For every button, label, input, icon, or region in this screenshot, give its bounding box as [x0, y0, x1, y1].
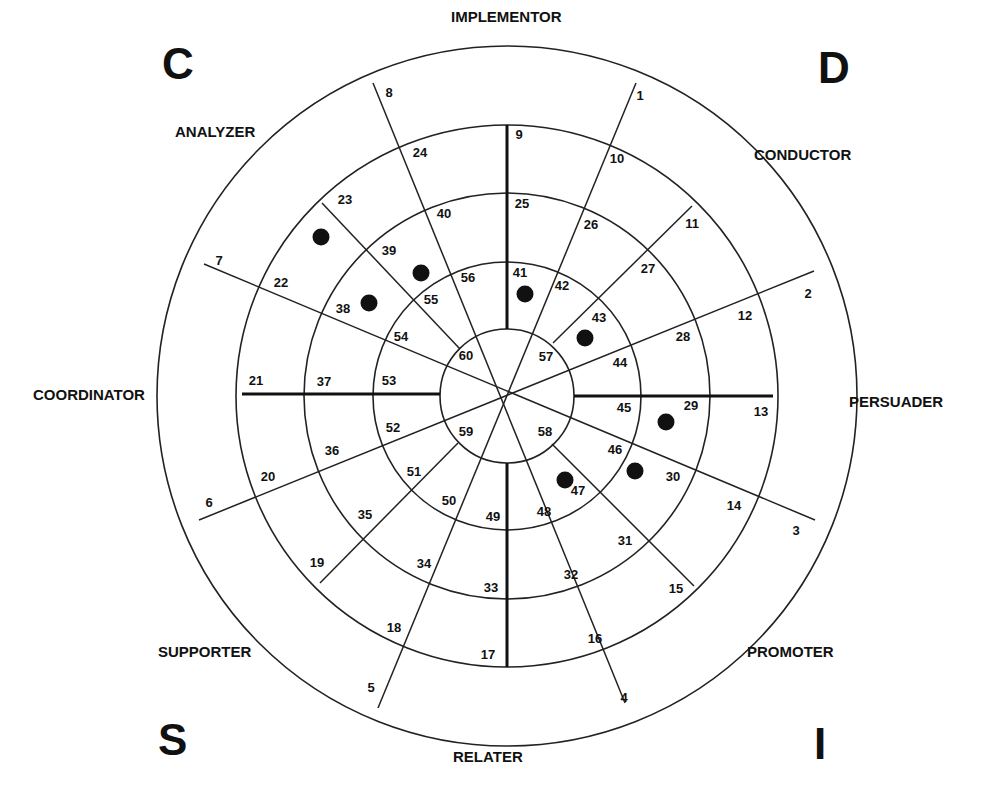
- cell-number: 43: [592, 310, 606, 325]
- cell-number: 54: [394, 329, 409, 344]
- spoke-58-segment: [552, 444, 694, 586]
- cell-number: 7: [215, 253, 222, 268]
- cell-number: 25: [515, 196, 529, 211]
- style-label-promoter: PROMOTER: [747, 643, 834, 660]
- style-label-analyzer: ANALYZER: [175, 123, 255, 140]
- cell-number: 2: [804, 286, 811, 301]
- cell-number: 37: [317, 374, 331, 389]
- cell-number: 5: [367, 680, 374, 695]
- cell-number: 49: [486, 509, 500, 524]
- cell-number: 35: [358, 507, 372, 522]
- cell-number: 3: [792, 523, 799, 538]
- cell-number: 55: [424, 292, 438, 307]
- cell-number: 23: [338, 192, 352, 207]
- cell-number: 51: [407, 464, 421, 479]
- cell-number: 41: [513, 265, 527, 280]
- style-label-supporter: SUPPORTER: [158, 643, 251, 660]
- corner-letter-d: D: [818, 46, 850, 90]
- cell-number: 16: [588, 631, 602, 646]
- cell-number: 4: [620, 690, 628, 705]
- style-label-persuader: PERSUADER: [849, 393, 943, 410]
- cell-number: 18: [387, 620, 401, 635]
- cell-number: 15: [669, 581, 683, 596]
- cell-number: 6: [205, 495, 212, 510]
- cell-number: 1: [636, 88, 643, 103]
- style-label-relater: RELATER: [453, 748, 523, 765]
- cell-number: 45: [617, 400, 631, 415]
- cell-number: 30: [666, 469, 680, 484]
- cell-number: 17: [481, 647, 495, 662]
- marked-dot-icon: [413, 265, 430, 282]
- cell-number: 22: [274, 275, 288, 290]
- cell-number: 58: [538, 424, 552, 439]
- marked-dot-icon: [658, 414, 675, 431]
- cell-number: 21: [249, 373, 263, 388]
- cell-number: 26: [584, 217, 598, 232]
- cell-number: 11: [685, 216, 699, 231]
- cell-number: 31: [618, 533, 632, 548]
- cell-number: 27: [641, 261, 655, 276]
- corner-letter-c: C: [162, 42, 194, 86]
- cell-number: 9: [515, 127, 522, 142]
- cell-number: 13: [754, 404, 768, 419]
- cell-number: 47: [571, 483, 585, 498]
- cell-number: 34: [417, 556, 432, 571]
- cell-number: 20: [261, 469, 275, 484]
- style-label-coordinator: COORDINATOR: [33, 386, 145, 403]
- marked-dot-icon: [557, 472, 574, 489]
- marked-dot-icon: [361, 295, 378, 312]
- cell-number: 19: [310, 555, 324, 570]
- cell-number: 29: [684, 398, 698, 413]
- cell-number: 56: [461, 270, 475, 285]
- cell-number: 57: [539, 349, 553, 364]
- cell-number: 48: [537, 504, 551, 519]
- cell-number: 28: [676, 329, 690, 344]
- cell-number: 50: [442, 493, 456, 508]
- cell-number: 44: [613, 355, 628, 370]
- cell-number: 12: [738, 308, 752, 323]
- cell-number: 10: [610, 151, 624, 166]
- corner-letter-i: I: [814, 722, 826, 766]
- marked-dot-icon: [313, 229, 330, 246]
- style-label-conductor: CONDUCTOR: [754, 146, 851, 163]
- cell-number: 60: [459, 348, 473, 363]
- spoke-11-segment: [553, 206, 692, 343]
- cell-number: 36: [325, 443, 339, 458]
- marked-dot-icon: [517, 286, 534, 303]
- disc-wheel-diagram: 1234567891011121314151617181920212223242…: [0, 0, 995, 793]
- cell-number: 46: [608, 442, 622, 457]
- cell-number: 39: [382, 243, 396, 258]
- cell-number: 14: [727, 498, 742, 513]
- corner-letter-s: S: [158, 718, 187, 762]
- cell-number: 38: [336, 301, 350, 316]
- cell-number: 8: [385, 85, 392, 100]
- cell-number: 53: [382, 373, 396, 388]
- cell-number: 42: [555, 278, 569, 293]
- cell-number: 32: [564, 567, 578, 582]
- cell-number: 52: [386, 420, 400, 435]
- cell-number: 33: [484, 580, 498, 595]
- cell-number: 40: [437, 206, 451, 221]
- cell-number: 59: [459, 424, 473, 439]
- style-label-implementor: IMPLEMENTOR: [451, 8, 562, 25]
- cell-number: 24: [413, 145, 428, 160]
- marked-dot-icon: [627, 463, 644, 480]
- marked-dot-icon: [577, 330, 594, 347]
